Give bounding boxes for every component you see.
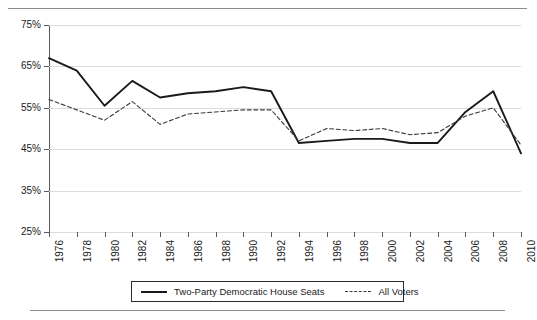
figure-bottom-rule — [30, 310, 505, 311]
legend-entry-two-party-democratic-house-seats: Two-Party Democratic House Seats — [141, 286, 324, 297]
legend-entry-all-voters: All Voters — [345, 286, 418, 297]
x-axis-tick-label: 2000 — [387, 240, 398, 262]
x-axis-tick-label: 1984 — [165, 240, 176, 262]
x-axis-tick — [382, 232, 383, 237]
y-axis-tick-label: 55% — [4, 102, 41, 113]
y-axis-tick — [44, 191, 49, 192]
x-axis-tick-label: 2008 — [498, 240, 509, 262]
x-axis-tick — [188, 232, 189, 237]
x-axis-tick — [49, 232, 50, 237]
x-axis-tick — [160, 232, 161, 237]
x-axis-tick-label: 2010 — [526, 240, 537, 262]
y-axis-tick — [44, 149, 49, 150]
x-axis-tick-label: 1998 — [359, 240, 370, 262]
x-axis-tick — [465, 232, 466, 237]
x-axis-tick-label: 1988 — [221, 240, 232, 262]
y-axis-tick-label: 35% — [4, 185, 41, 196]
x-axis-tick-label: 1978 — [82, 240, 93, 262]
x-axis-tick-label: 1980 — [110, 240, 121, 262]
x-axis-tick — [271, 232, 272, 237]
series-line — [49, 58, 521, 153]
x-axis-tick-label: 1976 — [54, 240, 65, 262]
legend-label: All Voters — [378, 286, 418, 297]
series-line — [49, 100, 521, 146]
x-axis-tick — [327, 232, 328, 237]
x-axis-tick — [299, 232, 300, 237]
x-axis-tick-label: 2006 — [470, 240, 481, 262]
y-axis-tick — [44, 66, 49, 67]
x-axis-tick-label: 1982 — [137, 240, 148, 262]
x-axis-tick-label: 1990 — [248, 240, 259, 262]
y-axis-tick-label: 45% — [4, 143, 41, 154]
y-axis-tick-label: 65% — [4, 60, 41, 71]
x-axis-tick — [354, 232, 355, 237]
x-axis-tick-label: 2002 — [415, 240, 426, 262]
x-axis-tick — [493, 232, 494, 237]
legend-label: Two-Party Democratic House Seats — [174, 286, 324, 297]
x-axis-tick — [216, 232, 217, 237]
x-axis-tick — [77, 232, 78, 237]
x-axis-tick — [410, 232, 411, 237]
y-axis-tick-label: 75% — [4, 19, 41, 30]
x-axis-tick — [105, 232, 106, 237]
chart-legend: Two-Party Democratic House Seats All Vot… — [131, 281, 404, 302]
y-axis-tick — [44, 108, 49, 109]
x-axis-tick-label: 1994 — [304, 240, 315, 262]
legend-swatch-solid-icon — [141, 291, 167, 293]
y-axis-tick — [44, 25, 49, 26]
x-axis-tick — [132, 232, 133, 237]
legend-swatch-dashed-icon — [345, 291, 371, 292]
y-axis-tick-label: 25% — [4, 226, 41, 237]
x-axis-tick-label: 1996 — [332, 240, 343, 262]
x-axis-tick-label: 1986 — [193, 240, 204, 262]
x-axis-tick-label: 1992 — [276, 240, 287, 262]
x-axis-tick — [521, 232, 522, 237]
x-axis-tick — [243, 232, 244, 237]
x-axis-tick — [438, 232, 439, 237]
x-axis-tick-label: 2004 — [443, 240, 454, 262]
